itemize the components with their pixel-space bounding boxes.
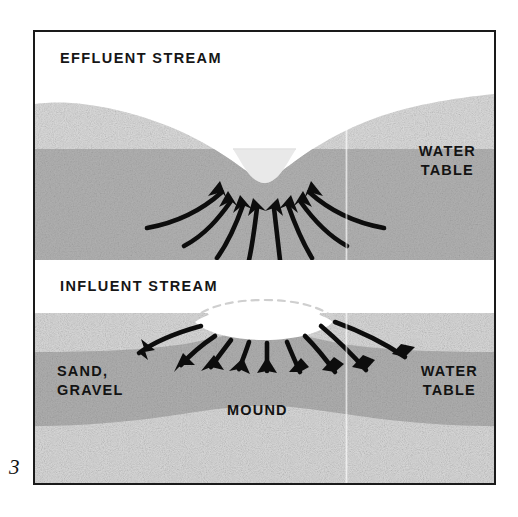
figure-canvas: 3: [0, 0, 518, 517]
panel-influent-stream: INFLUENT STREAM SAND, GRAVEL MOUND WATER…: [35, 260, 494, 483]
figure-number: 3: [9, 455, 20, 480]
water-table-label-top: WATER TABLE: [419, 142, 476, 180]
mound-label: MOUND: [227, 401, 288, 420]
panel-effluent-stream: EFFLUENT STREAM WATER TABLE: [35, 32, 494, 260]
panel-title-influent: INFLUENT STREAM: [60, 278, 218, 294]
water-table-label-line2: TABLE: [421, 162, 474, 178]
figure-frame: EFFLUENT STREAM WATER TABLE: [33, 30, 496, 485]
water-table-label-line2: TABLE: [423, 382, 476, 398]
sand-gravel-label-line1: SAND,: [57, 363, 108, 379]
sand-gravel-label: SAND, GRAVEL: [57, 362, 124, 400]
water-table-label-line1: WATER: [419, 143, 476, 159]
sand-gravel-label-line2: GRAVEL: [57, 382, 124, 398]
panel-title-effluent: EFFLUENT STREAM: [60, 50, 222, 66]
water-table-label-line1: WATER: [421, 363, 478, 379]
water-table-label-bottom: WATER TABLE: [421, 362, 478, 400]
